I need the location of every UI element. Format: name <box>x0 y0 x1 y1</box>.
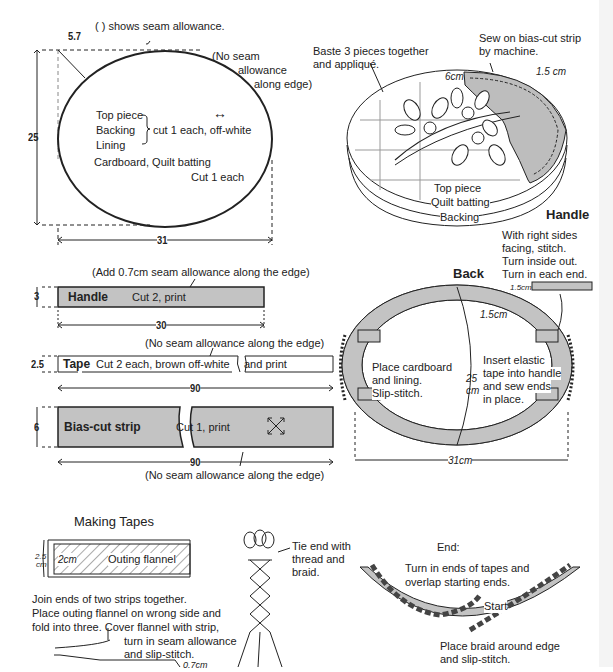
place-note-2: and slip-stitch. <box>440 653 510 666</box>
start-label: Start <box>484 600 507 613</box>
tape-dim-2: 2cm <box>58 553 77 566</box>
no-seam-note-2: allowance <box>238 64 287 77</box>
back-left-note-3: Slip-stitch. <box>372 387 423 400</box>
tape-label: Tape <box>63 358 90 371</box>
back-view-title: Back <box>453 267 484 280</box>
baste-note-1: Baste 3 pieces together <box>313 45 429 58</box>
grain-arrow-icon: ↔ <box>213 107 227 120</box>
back-dim-1-5: 1.5cm <box>480 308 507 321</box>
slip-note-1: turn in seam allowance <box>124 635 237 648</box>
tape-height: 2.5 <box>31 358 44 371</box>
back-width: 31cm <box>448 454 472 467</box>
place-note-1: Place braid around edge <box>440 640 560 653</box>
tapes-step-3: fold into three. Cover flannel with stri… <box>32 621 219 634</box>
handle-step-4: Turn in each end. <box>502 268 587 281</box>
back-right-note-4: in place. <box>483 393 524 406</box>
back-right-note-2: tape into handle <box>483 367 561 380</box>
piece-backing: Backing <box>96 124 135 137</box>
tie-note-1: Tie end with <box>292 540 351 553</box>
tape-dim-2-5-unit: cm <box>36 558 47 571</box>
tape-cut-note-b: and print <box>244 358 287 371</box>
handle-detail-title: Handle <box>546 208 589 221</box>
handle-step-2: facing, stitch. <box>502 242 566 255</box>
handle-step-3: Turn inside out. <box>502 255 577 268</box>
piece-top: Top piece <box>96 109 143 122</box>
bias-strip-drawing <box>37 407 333 466</box>
handle-cut-note: Cut 2, print <box>132 291 186 304</box>
pieces-cut-note: cut 1 each, off-white <box>153 124 251 137</box>
layer-top-piece: Top piece <box>434 182 481 195</box>
tape-cut-note-a: Cut 2 each, brown off-white <box>96 358 230 371</box>
handle-detail-dim: 1.5cm <box>510 281 532 294</box>
seam-allowance-legend: ( ) shows seam allowance. <box>95 20 225 33</box>
dim-6cm: 6cm <box>445 70 464 83</box>
end-detail-title: End: <box>437 541 460 554</box>
handle-width: 30 <box>156 319 166 332</box>
back-left-note-1: Place cardboard <box>372 361 452 374</box>
handle-step-1: With right sides <box>502 229 577 242</box>
handle-seam-note: (Add 0.7cm seam allowance along the edge… <box>92 266 310 279</box>
outing-flannel-label: Outing flannel <box>108 553 176 566</box>
handle-label: Handle <box>68 291 108 304</box>
back-right-note-3: and sew ends <box>483 380 551 393</box>
other-pieces: Cardboard, Quilt batting <box>94 156 211 169</box>
tie-note-2: thread and <box>292 553 345 566</box>
oval-pattern-drawing <box>34 41 272 245</box>
sew-note-1: Sew on bias-cut strip <box>479 32 581 45</box>
corner-dimension: 5.7 <box>68 30 81 43</box>
turn-note-2: overlap starting ends. <box>405 576 510 589</box>
tape-seam-note: (No seam allowance along the edge) <box>145 337 324 350</box>
tapes-step-2: Place outing flannel on wrong side and <box>32 607 221 620</box>
back-height-unit: cm <box>466 384 479 397</box>
sew-note-2: by machine. <box>479 45 538 58</box>
other-cut-note: Cut 1 each <box>191 171 244 184</box>
bias-strip-seam-note: (No seam allowance along the edge) <box>145 469 324 482</box>
back-left-note-2: and lining. <box>372 374 422 387</box>
bias-strip-width: 90 <box>190 456 200 469</box>
tape-width: 90 <box>190 382 200 395</box>
bias-strip-cut-note: Cut 1, print <box>176 421 230 434</box>
oval-width: 31 <box>157 234 167 247</box>
layer-quilt-batting: Quilt batting <box>431 196 490 209</box>
no-seam-note-1: (No seam <box>212 50 260 63</box>
back-right-note-1: Insert elastic <box>483 354 545 367</box>
bias-strip-height: 6 <box>34 421 39 434</box>
oval-height: 25 <box>28 131 38 144</box>
piece-lining: Lining <box>96 139 125 152</box>
layer-backing: Backing <box>440 211 479 224</box>
dim-1-5cm: 1.5 cm <box>536 65 566 78</box>
no-seam-note-3: along edge) <box>254 78 312 91</box>
dim-0-7cm: 0.7cm <box>183 659 208 672</box>
turn-note-1: Turn in ends of tapes and <box>405 562 529 575</box>
baste-note-2: and appliqué. <box>313 58 379 71</box>
tie-note-3: braid. <box>292 566 320 579</box>
handle-height: 3 <box>34 290 39 303</box>
making-tapes-title: Making Tapes <box>74 515 154 528</box>
tapes-step-1: Join ends of two strips together. <box>32 593 187 606</box>
bias-strip-label: Bias-cut strip <box>64 421 141 434</box>
